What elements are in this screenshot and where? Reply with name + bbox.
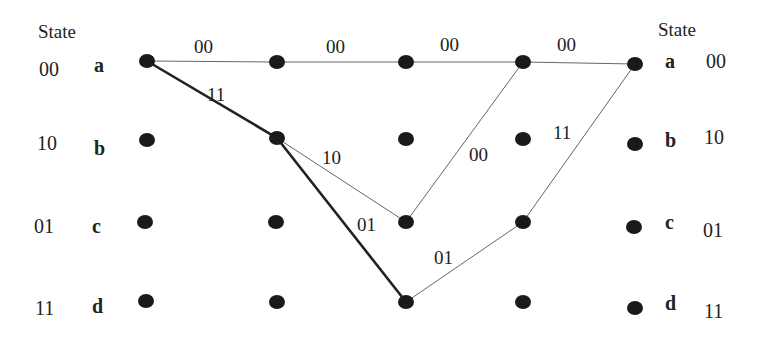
edge-label-a3-a4: 00 <box>557 34 576 55</box>
right-letter-c: c <box>665 211 674 233</box>
edge-a3-a4 <box>523 62 635 64</box>
trellis-diagram: 00 00 00 00 11 10 01 00 01 11 State 00 1… <box>0 0 766 345</box>
left-state-header: State <box>38 21 76 42</box>
edge-label-a0-a1: 00 <box>194 36 213 57</box>
edge-d2-c3 <box>406 222 523 302</box>
edge-label-c2-a3: 00 <box>469 144 488 165</box>
right-state-header: State <box>658 19 696 40</box>
node-b-2 <box>398 132 414 146</box>
right-code-d: 11 <box>704 300 723 322</box>
left-letter-a: a <box>94 54 104 76</box>
node-b-0 <box>139 133 155 147</box>
right-code-b: 10 <box>704 126 724 148</box>
node-b-1 <box>269 131 285 145</box>
node-d-4 <box>627 301 643 315</box>
path-edge-b1-d2 <box>277 138 406 302</box>
node-a-4 <box>627 57 643 71</box>
node-c-4 <box>626 220 642 234</box>
node-a-1 <box>269 55 285 69</box>
right-code-a: 00 <box>706 50 726 72</box>
left-letter-b: b <box>94 137 105 159</box>
edge-label-d2-c3: 01 <box>434 247 453 268</box>
edge-a0-a1 <box>147 61 277 62</box>
edge-label-a0-b1: 11 <box>207 84 225 105</box>
node-a-0 <box>139 54 155 68</box>
left-letter-c: c <box>92 215 101 237</box>
edge-label-a1-a2: 00 <box>326 36 345 57</box>
node-b-4 <box>627 137 643 151</box>
node-c-2 <box>398 215 414 229</box>
right-letter-d: d <box>665 292 676 314</box>
node-d-2 <box>398 295 414 309</box>
node-a-3 <box>515 55 531 69</box>
node-d-0 <box>138 294 154 308</box>
left-letter-d: d <box>92 295 103 317</box>
node-d-3 <box>515 295 531 309</box>
left-code-c: 01 <box>34 215 54 237</box>
left-code-a: 00 <box>39 58 59 80</box>
right-letter-b: b <box>665 129 676 151</box>
node-c-0 <box>137 215 153 229</box>
edge-c2-a3 <box>406 62 523 222</box>
edge-label-c3-a4: 11 <box>553 122 571 143</box>
left-code-b: 10 <box>37 132 57 154</box>
right-code-c: 01 <box>703 219 723 241</box>
edge-label-b1-c2: 10 <box>322 147 341 168</box>
edge-label-b1-d2: 01 <box>357 214 376 235</box>
trellis-canvas: 00 00 00 00 11 10 01 00 01 11 State 00 1… <box>0 0 766 345</box>
node-c-1 <box>268 215 284 229</box>
node-d-1 <box>269 295 285 309</box>
right-letter-a: a <box>665 50 675 72</box>
edge-label-a2-a3: 00 <box>440 34 459 55</box>
node-a-2 <box>398 55 414 69</box>
edge-c3-a4 <box>523 64 635 222</box>
node-b-3 <box>515 132 531 146</box>
left-code-d: 11 <box>35 297 54 319</box>
node-c-3 <box>515 215 531 229</box>
edge-b1-c2 <box>277 138 406 222</box>
